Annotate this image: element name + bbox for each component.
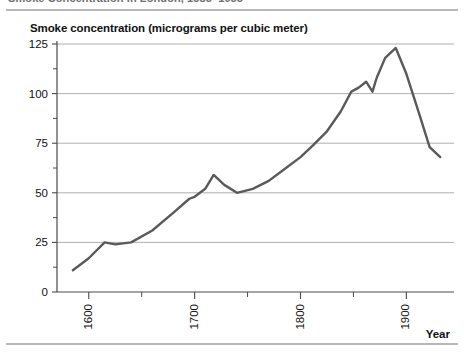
data-series-group [73,48,440,270]
line-chart-svg: 0255075100125 1600170018001900 Year [6,11,458,347]
x-tick-labels: 1600170018001900 [82,304,412,330]
x-tick-label-1800: 1800 [294,304,306,330]
page-title: Smoke Concentration in London, 1585–1935 [8,0,243,4]
y-tick-label-0: 0 [42,286,48,298]
x-tick-label-1600: 1600 [82,304,94,330]
y-tick-label-50: 50 [35,187,48,199]
data-line-smoke-concentration [73,48,440,270]
plot-area: 0255075100125 1600170018001900 Year [6,11,458,347]
figure-frame: Smoke concentration (micrograms per cubi… [6,9,458,345]
y-tick-label-25: 25 [35,236,48,248]
y-tick-label-125: 125 [29,38,48,50]
page-title-strip: Smoke Concentration in London, 1585–1935 [0,0,464,8]
y-tick-labels: 0255075100125 [29,38,48,298]
ticks-group [52,44,406,299]
y-tick-label-75: 75 [35,137,48,149]
axes-group [57,41,454,292]
x-axis-name: Year [426,328,451,340]
y-tick-label-100: 100 [29,88,48,100]
x-tick-label-1700: 1700 [188,304,200,330]
x-tick-label-1900: 1900 [399,304,411,330]
gridlines-group [57,44,454,242]
